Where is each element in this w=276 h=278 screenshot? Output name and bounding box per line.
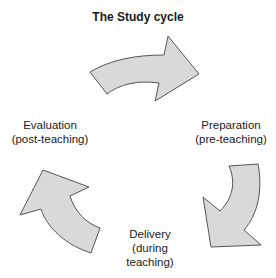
- stage-evaluation-phase: (post-teaching): [4, 132, 96, 146]
- stage-delivery-phase-1: (during: [117, 241, 183, 255]
- study-cycle-diagram: The Study cycle Preparation (pre-teachin…: [0, 0, 276, 278]
- stage-preparation-name: Preparation: [186, 118, 276, 132]
- stage-delivery-name: Delivery: [117, 227, 183, 241]
- stage-delivery: Delivery (during teaching): [117, 227, 183, 269]
- stage-evaluation: Evaluation (post-teaching): [4, 118, 96, 146]
- arrow-prep-to-deliv-icon: [203, 164, 261, 247]
- stage-delivery-phase-2: teaching): [117, 255, 183, 269]
- arrow-eval-to-prep-icon: [90, 36, 199, 101]
- arrow-deliv-to-eval-icon: [20, 170, 100, 253]
- stage-preparation: Preparation (pre-teaching): [186, 118, 276, 146]
- stage-preparation-phase: (pre-teaching): [186, 132, 276, 146]
- stage-evaluation-name: Evaluation: [4, 118, 96, 132]
